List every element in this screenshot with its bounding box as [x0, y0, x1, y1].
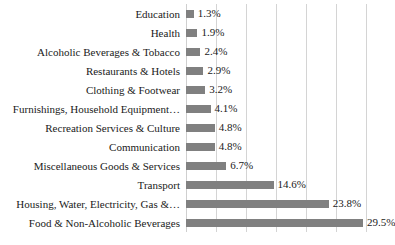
category-label: Alcoholic Beverages & Tobacco — [37, 42, 180, 61]
category-label: Education — [135, 4, 180, 23]
gridline-30 — [366, 4, 367, 232]
bar-value-label: 3.2% — [209, 84, 232, 95]
bar-value-label: 4.1% — [215, 103, 238, 114]
bar-value-label: 2.4% — [204, 46, 227, 57]
category-label: Recreation Services & Culture — [45, 118, 180, 137]
bar-row: 1.9% — [186, 23, 366, 42]
bar — [186, 48, 200, 56]
bar-value-label: 2.9% — [207, 65, 230, 76]
category-label: Transport — [138, 175, 180, 194]
bar-value-label: 4.8% — [219, 122, 242, 133]
bar — [186, 124, 215, 132]
bar-row: 1.3% — [186, 4, 366, 23]
bar — [186, 86, 205, 94]
bar-row: 2.9% — [186, 61, 366, 80]
bar — [186, 181, 274, 189]
bar — [186, 143, 215, 151]
bar — [186, 200, 329, 208]
category-label: Miscellaneous Goods & Services — [34, 156, 180, 175]
bar-value-label: 23.8% — [333, 198, 361, 209]
bar-value-label: 1.3% — [198, 8, 221, 19]
bar-row: 23.8% — [186, 194, 366, 213]
bar-row: 29.5% — [186, 213, 366, 232]
category-axis-labels: EducationHealthAlcoholic Beverages & Tob… — [0, 4, 183, 232]
bar-row: 6.7% — [186, 156, 366, 175]
bar — [186, 10, 194, 18]
category-label: Communication — [109, 137, 180, 156]
bar-value-label: 6.7% — [230, 160, 253, 171]
bar-row: 2.4% — [186, 42, 366, 61]
category-label: Health — [151, 23, 180, 42]
bar-value-label: 14.6% — [278, 179, 306, 190]
bar-value-label: 1.9% — [201, 27, 224, 38]
bar-row: 14.6% — [186, 175, 366, 194]
bar-rows: 1.3%1.9%2.4%2.9%3.2%4.1%4.8%4.8%6.7%14.6… — [186, 4, 366, 232]
bar-value-label: 4.8% — [219, 141, 242, 152]
bar-row: 3.2% — [186, 80, 366, 99]
bar — [186, 105, 211, 113]
bar-value-label: 29.5% — [367, 217, 395, 228]
plot-area: 1.3%1.9%2.4%2.9%3.2%4.1%4.8%4.8%6.7%14.6… — [186, 4, 366, 232]
category-label: Food & Non-Alcoholic Beverages — [29, 213, 180, 232]
bar — [186, 219, 363, 227]
bar-row: 4.8% — [186, 118, 366, 137]
bar-row: 4.8% — [186, 137, 366, 156]
category-label: Housing, Water, Electricity, Gas &… — [16, 194, 180, 213]
bar-row: 4.1% — [186, 99, 366, 118]
bar — [186, 67, 203, 75]
category-label: Clothing & Footwear — [86, 80, 180, 99]
category-label: Restaurants & Hotels — [86, 61, 180, 80]
category-label: Furnishings, Household Equipment… — [13, 99, 180, 118]
bar — [186, 162, 226, 170]
bar — [186, 29, 197, 37]
